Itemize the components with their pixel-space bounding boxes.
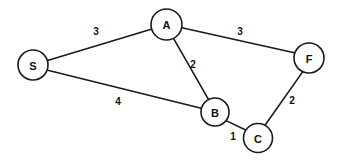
- node-b-label: B: [211, 107, 219, 119]
- edge-weight-a-b: 2: [190, 59, 196, 70]
- node-b: B: [201, 98, 229, 126]
- edge-weight-b-c: 1: [230, 131, 236, 142]
- graph-diagram: 3 3 2 4 1 2 S A F B: [0, 0, 338, 162]
- edge-c-f: [265, 72, 303, 126]
- edge-weight-s-a: 3: [93, 26, 99, 37]
- node-s: S: [18, 50, 48, 80]
- node-c: C: [244, 124, 273, 153]
- edge-weight-s-b: 4: [115, 96, 121, 107]
- edge-weight-c-f: 2: [289, 95, 295, 106]
- graph-canvas: 3 3 2 4 1 2 S A F B: [0, 0, 338, 162]
- node-a: A: [151, 9, 182, 40]
- node-a-label: A: [163, 19, 171, 31]
- edge-layer: [48, 28, 303, 131]
- node-f: F: [294, 43, 324, 73]
- node-layer: S A F B C: [18, 9, 324, 153]
- edge-s-b: [48, 70, 202, 108]
- node-c-label: C: [254, 133, 262, 145]
- node-s-label: S: [29, 60, 36, 72]
- node-f-label: F: [306, 53, 313, 65]
- edge-s-a: [48, 29, 153, 61]
- edge-b-c: [226, 121, 247, 131]
- edge-weight-a-f: 3: [237, 26, 243, 37]
